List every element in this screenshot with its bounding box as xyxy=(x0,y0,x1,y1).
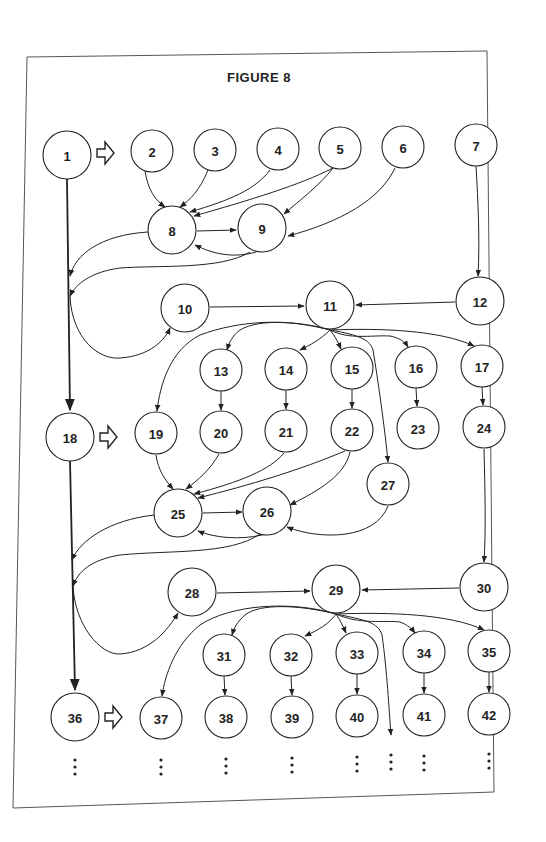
edge-26-spine xyxy=(73,534,260,586)
edge-12-11 xyxy=(356,302,455,305)
node-36: 36 xyxy=(51,693,99,741)
node-2: 2 xyxy=(131,130,173,172)
vertical-ellipsis-icon xyxy=(422,754,425,771)
edge-19-25 xyxy=(156,455,173,489)
node-8: 8 xyxy=(148,206,196,254)
edge-7-12 xyxy=(476,166,479,276)
edge-8-9 xyxy=(197,230,236,231)
edge-6-9 xyxy=(288,168,395,236)
node-label: 37 xyxy=(154,712,168,727)
node-14: 14 xyxy=(265,348,307,390)
edge-11-14 xyxy=(300,330,330,350)
node-7: 7 xyxy=(455,124,497,166)
edge-18-36 xyxy=(70,461,75,690)
node-label: 7 xyxy=(472,139,479,154)
node-3: 3 xyxy=(194,129,236,171)
node-32: 32 xyxy=(270,634,312,676)
node-label: 33 xyxy=(350,647,364,662)
node-label: 24 xyxy=(477,421,492,436)
vertical-ellipsis-icon xyxy=(290,756,293,773)
node-label: 16 xyxy=(409,361,423,376)
node-label: 14 xyxy=(279,363,294,378)
node-label: 13 xyxy=(214,364,228,379)
edge-24-30 xyxy=(484,449,485,562)
node-label: 40 xyxy=(350,710,364,725)
edge-22-26 xyxy=(290,452,350,505)
edge-1-18 xyxy=(67,179,70,410)
edge-29-31 xyxy=(232,607,336,635)
node-label: 39 xyxy=(285,711,299,726)
node-label: 29 xyxy=(329,583,343,598)
node-41: 41 xyxy=(403,694,445,736)
node-label: 26 xyxy=(260,505,274,520)
node-33: 33 xyxy=(336,632,378,674)
edge-28-29 xyxy=(217,591,310,593)
node-label: 4 xyxy=(274,143,282,158)
node-28: 28 xyxy=(168,568,216,616)
node-label: 36 xyxy=(68,711,82,726)
node-label: 2 xyxy=(148,145,155,160)
hollow-arrow-icon xyxy=(97,142,114,164)
edge-spine-10 xyxy=(70,296,170,358)
node-42: 42 xyxy=(468,693,510,735)
edge-26-25 xyxy=(198,531,262,538)
node-label: 38 xyxy=(219,711,233,726)
node-label: 30 xyxy=(477,581,491,596)
node-label: 35 xyxy=(482,645,496,660)
node-17: 17 xyxy=(461,345,503,387)
hollow-arrow-icon xyxy=(105,706,122,728)
edge-11-17 xyxy=(330,329,474,346)
node-label: 11 xyxy=(323,299,337,314)
edge-29-32 xyxy=(305,614,336,636)
node-label: 1 xyxy=(63,149,70,164)
node-1: 1 xyxy=(43,131,91,179)
node-11: 11 xyxy=(306,281,354,329)
edge-2-8 xyxy=(145,171,165,207)
node-37: 37 xyxy=(140,697,182,739)
node-31: 31 xyxy=(203,634,245,676)
node-15: 15 xyxy=(331,347,373,389)
node-label: 10 xyxy=(178,302,192,317)
vertical-ellipsis-icon xyxy=(389,753,392,770)
ellipsis-layer xyxy=(73,752,490,775)
node-label: 23 xyxy=(411,422,425,437)
node-6: 6 xyxy=(382,126,424,168)
edge-spine-28 xyxy=(73,586,178,654)
node-label: 21 xyxy=(279,425,293,440)
node-label: 25 xyxy=(171,507,185,522)
node-label: 5 xyxy=(336,142,343,157)
node-label: 27 xyxy=(381,478,395,493)
edge-32-39 xyxy=(291,676,292,695)
node-label: 28 xyxy=(185,586,199,601)
node-label: 8 xyxy=(168,224,175,239)
node-40: 40 xyxy=(336,695,378,737)
node-18: 18 xyxy=(46,413,94,461)
edge-16-23 xyxy=(416,388,417,406)
node-34: 34 xyxy=(403,631,445,673)
node-label: 41 xyxy=(417,709,431,724)
edge-5-9 xyxy=(284,168,333,214)
node-21: 21 xyxy=(265,410,307,452)
vertical-ellipsis-icon xyxy=(73,758,76,775)
node-23: 23 xyxy=(397,407,439,449)
node-label: 19 xyxy=(149,427,163,442)
hollow-arrow-icon xyxy=(100,426,117,448)
vertical-ellipsis-icon xyxy=(224,757,227,774)
node-26: 26 xyxy=(243,487,291,535)
node-38: 38 xyxy=(205,696,247,738)
node-20: 20 xyxy=(200,411,242,453)
node-39: 39 xyxy=(271,696,313,738)
node-5: 5 xyxy=(319,127,361,169)
node-24: 24 xyxy=(463,406,505,448)
node-label: 6 xyxy=(399,141,406,156)
node-label: 42 xyxy=(482,708,496,723)
node-27: 27 xyxy=(367,463,409,505)
node-9: 9 xyxy=(238,204,286,252)
node-label: 17 xyxy=(475,360,489,375)
node-label: 31 xyxy=(217,649,231,664)
node-label: 32 xyxy=(284,649,298,664)
hollow-arrows-layer xyxy=(97,142,122,728)
figure-8-diagram: FIGURE 8 xyxy=(0,0,546,842)
node-label: 34 xyxy=(417,646,432,661)
node-13: 13 xyxy=(200,349,242,391)
